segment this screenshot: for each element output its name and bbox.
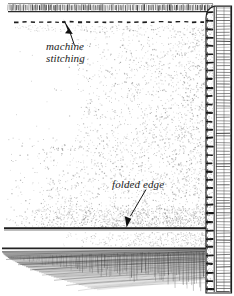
- folded-edge-arrowhead: [125, 213, 135, 228]
- band-outline: [206, 6, 232, 293]
- woven-fabric-crosshatch: [2, 250, 206, 292]
- illustration-canvas: [0, 0, 234, 296]
- machine-stitching-label-line2: stitching: [46, 52, 85, 64]
- machine-stitching-label-line1: machine: [46, 40, 85, 52]
- sewing-technique-illustration: machine stitching folded edge: [0, 0, 234, 296]
- fabric-shading-stipple: [6, 26, 209, 247]
- right-edge-band: [206, 6, 232, 293]
- machine-stitching-label: machine stitching: [46, 40, 85, 64]
- machine-stitch-dashes: [14, 22, 212, 33]
- folded-edge-label: folded edge: [112, 178, 164, 190]
- cut-edge-tick-band: [8, 4, 213, 11]
